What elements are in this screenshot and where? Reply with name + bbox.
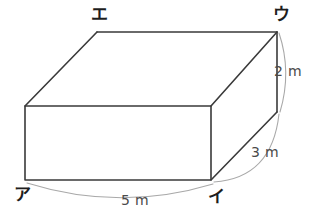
vertex-label-a: ア [14,184,31,204]
dimension-label-width: 5 m [121,192,149,208]
vertex-label-i: イ [208,186,225,206]
vertex-label-e: エ [91,4,108,24]
dimension-label-depth: 3 m [251,144,279,160]
dimension-label-height: 2 m [274,63,302,79]
width-dimension-arc [27,183,213,198]
front-face [25,106,211,180]
prism-diagram-svg: ア イ ウ エ 5 m 3 m 2 m [0,0,316,210]
vertex-label-u: ウ [273,4,290,24]
figure-container: ア イ ウ エ 5 m 3 m 2 m [0,0,316,210]
